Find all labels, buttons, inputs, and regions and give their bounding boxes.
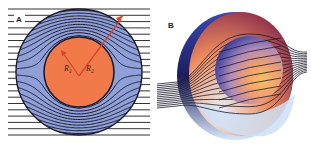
panel-label-b: B (168, 21, 174, 30)
panel-label-a: A (16, 15, 22, 24)
panel-b: B (155, 0, 311, 146)
inner-sphere (215, 36, 283, 104)
panel-b-figure: B (155, 0, 311, 146)
inner-core (44, 37, 114, 107)
panel-a: A R1 R2 (0, 0, 155, 146)
panel-a-figure: A R1 R2 (0, 0, 155, 146)
